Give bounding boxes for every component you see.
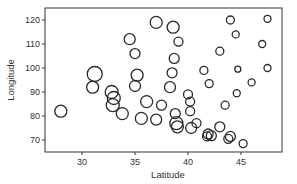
x-tick-label: 30 xyxy=(77,157,87,167)
data-point xyxy=(239,140,247,148)
data-point xyxy=(141,96,153,108)
y-axis-title: Longitude xyxy=(5,59,16,101)
x-axis-title: Latitude xyxy=(151,169,185,180)
y-tick-label: 100 xyxy=(25,63,40,73)
data-point xyxy=(157,100,167,110)
data-point xyxy=(124,34,135,45)
data-point xyxy=(135,112,147,124)
data-point xyxy=(169,53,179,63)
data-point xyxy=(264,65,271,72)
data-point xyxy=(205,80,213,88)
x-tick-label: 35 xyxy=(130,157,140,167)
data-point xyxy=(259,41,266,48)
data-point xyxy=(167,21,179,33)
data-points xyxy=(55,15,271,147)
data-point xyxy=(130,49,140,59)
y-tick-label: 80 xyxy=(30,111,40,121)
data-point xyxy=(221,101,229,109)
data-point xyxy=(87,67,102,82)
data-point xyxy=(225,131,235,141)
data-point xyxy=(87,81,99,93)
x-tick-label: 45 xyxy=(236,157,246,167)
y-tick-label: 90 xyxy=(30,87,40,97)
data-point xyxy=(167,68,177,78)
x-axis: 30354045 xyxy=(77,152,246,167)
data-point xyxy=(224,134,233,143)
data-point xyxy=(215,122,225,132)
data-point xyxy=(233,90,240,97)
scatter-chart: 708090100110120 30354045 Latitude Longit… xyxy=(0,0,297,184)
plot-area xyxy=(45,8,282,152)
data-point xyxy=(116,108,128,120)
data-point xyxy=(226,16,234,24)
data-point xyxy=(264,15,271,22)
x-tick-label: 40 xyxy=(183,157,193,167)
data-point xyxy=(130,81,141,92)
data-point xyxy=(151,114,162,125)
data-point xyxy=(55,105,67,117)
y-tick-label: 110 xyxy=(26,39,40,49)
data-point xyxy=(150,16,162,28)
data-point xyxy=(200,66,208,74)
y-tick-label: 120 xyxy=(25,15,40,25)
data-point xyxy=(216,47,224,55)
data-point xyxy=(248,79,255,86)
data-point xyxy=(131,69,143,81)
y-axis: 708090100110120 xyxy=(25,15,45,145)
data-point xyxy=(174,37,183,46)
data-point xyxy=(235,66,241,72)
data-point xyxy=(186,107,195,116)
data-point xyxy=(164,82,175,93)
data-point xyxy=(232,31,239,38)
y-tick-label: 70 xyxy=(30,135,40,145)
